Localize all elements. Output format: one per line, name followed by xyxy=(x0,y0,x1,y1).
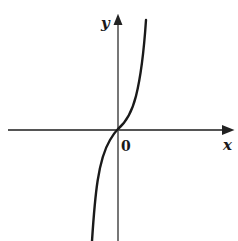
y-axis-label: y xyxy=(100,14,111,32)
x-axis-label: x xyxy=(222,136,233,154)
function-graph: y x 0 xyxy=(0,0,238,241)
origin-label: 0 xyxy=(121,138,131,154)
